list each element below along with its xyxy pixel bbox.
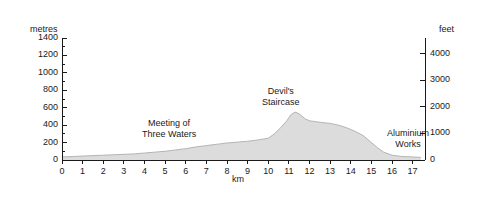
left-axis-tick-label: 1200 bbox=[28, 49, 58, 59]
left-axis-tick-label: 0 bbox=[28, 154, 58, 164]
annotation-meeting-of-three-waters: Meeting of Three Waters bbox=[142, 118, 196, 140]
x-axis-tick-label: 14 bbox=[343, 166, 359, 176]
x-axis-unit-label: km bbox=[232, 174, 244, 184]
x-axis-tick-label: 4 bbox=[137, 166, 153, 176]
left-axis-tick-label: 600 bbox=[28, 102, 58, 112]
x-axis-tick-label: 17 bbox=[405, 166, 421, 176]
right-axis-tick-label: 1000 bbox=[430, 127, 464, 137]
x-axis-tick-label: 7 bbox=[198, 166, 214, 176]
x-axis-tick-label: 0 bbox=[54, 166, 70, 176]
elevation-area-fill bbox=[62, 112, 421, 160]
right-axis-tick-label: 4000 bbox=[430, 48, 464, 58]
annotation-line-1: Devil's bbox=[262, 86, 300, 97]
plot-area bbox=[62, 112, 421, 160]
annotation-line-1: Meeting of bbox=[142, 118, 196, 129]
right-axis-tick-label: 0 bbox=[430, 154, 464, 164]
elevation-profile-chart: metres feet 0200400600800100012001400 01… bbox=[0, 0, 490, 222]
x-axis-tick-label: 13 bbox=[322, 166, 338, 176]
annotation-line-1: Aluminium bbox=[387, 128, 429, 139]
x-axis-tick-label: 12 bbox=[302, 166, 318, 176]
x-axis-tick-label: 11 bbox=[281, 166, 297, 176]
right-axis-tick-label: 3000 bbox=[430, 74, 464, 84]
chart-canvas bbox=[0, 0, 490, 222]
annotation-aluminium-works: Aluminium Works bbox=[387, 128, 429, 150]
x-axis-tick-label: 15 bbox=[363, 166, 379, 176]
left-axis-tick-label: 1400 bbox=[28, 32, 58, 42]
left-axis-tick-label: 400 bbox=[28, 119, 58, 129]
annotation-line-2: Works bbox=[387, 139, 429, 150]
annotation-line-2: Staircase bbox=[262, 97, 300, 108]
left-axis-tick-label: 200 bbox=[28, 137, 58, 147]
x-axis-tick-label: 6 bbox=[178, 166, 194, 176]
x-axis-tick-label: 5 bbox=[157, 166, 173, 176]
left-axis-tick-label: 1000 bbox=[28, 67, 58, 77]
x-axis-tick-label: 10 bbox=[260, 166, 276, 176]
x-axis-tick-label: 16 bbox=[384, 166, 400, 176]
x-axis-tick-label: 1 bbox=[75, 166, 91, 176]
annotation-devils-staircase: Devil's Staircase bbox=[262, 86, 300, 108]
x-axis-tick-label: 2 bbox=[95, 166, 111, 176]
annotation-line-2: Three Waters bbox=[142, 129, 196, 140]
right-axis-tick-label: 2000 bbox=[430, 101, 464, 111]
x-axis-tick-label: 3 bbox=[116, 166, 132, 176]
left-axis-tick-label: 800 bbox=[28, 84, 58, 94]
